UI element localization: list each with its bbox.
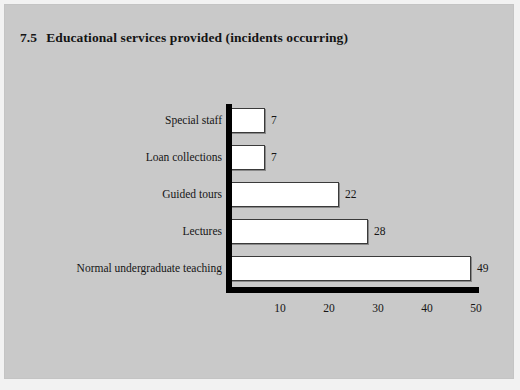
x-tick-label-20: 20 xyxy=(323,302,335,314)
category-label-loan-collections: Loan collections xyxy=(146,151,222,163)
category-label-guided-tours: Guided tours xyxy=(162,188,222,200)
bar-lectures xyxy=(231,219,368,244)
x-tick-label-10: 10 xyxy=(274,302,286,314)
category-label-special-staff: Special staff xyxy=(165,114,222,126)
x-tick-label-50: 50 xyxy=(470,302,482,314)
bar-value-loan-collections: 7 xyxy=(271,151,277,163)
x-axis-line xyxy=(226,287,479,293)
category-label-normal-undergraduate-teaching: Normal undergraduate teaching xyxy=(77,262,222,274)
bar-value-normal-undergraduate-teaching: 49 xyxy=(477,262,489,274)
bar-chart: Special staff Loan collections Guided to… xyxy=(0,0,520,390)
bar-guided-tours xyxy=(231,182,339,207)
bar-value-guided-tours: 22 xyxy=(345,188,357,200)
figure-page: 7.5Educational services provided (incide… xyxy=(0,0,520,390)
bar-value-lectures: 28 xyxy=(374,225,386,237)
bar-normal-undergraduate-teaching xyxy=(231,256,471,281)
y-axis-line xyxy=(226,104,232,293)
bar-value-special-staff: 7 xyxy=(271,114,277,126)
x-tick-label-30: 30 xyxy=(372,302,384,314)
x-tick-label-40: 40 xyxy=(421,302,433,314)
bar-loan-collections xyxy=(231,145,265,170)
category-label-lectures: Lectures xyxy=(182,225,222,237)
bar-special-staff xyxy=(231,108,265,133)
